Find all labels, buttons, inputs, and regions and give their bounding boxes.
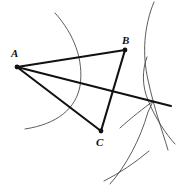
vertex-label-a: A: [10, 47, 18, 59]
vertex-dot-b: [123, 48, 128, 53]
arc-right-outer: [145, 2, 168, 150]
vertex-label-b: B: [121, 34, 129, 46]
arc-bottom: [104, 151, 149, 181]
geometry-figure: A B C: [0, 0, 176, 185]
triangle-segments: [17, 50, 171, 131]
figure-canvas: A B C: [0, 0, 176, 185]
arc-lower-right-long: [110, 101, 153, 184]
segment-a-ray: [17, 67, 171, 106]
vertex-dot-c: [99, 129, 104, 134]
construction-arcs: [25, 2, 175, 184]
vertex-dot-a: [15, 65, 20, 70]
vertex-label-c: C: [96, 136, 104, 148]
segment-ab: [17, 50, 125, 67]
